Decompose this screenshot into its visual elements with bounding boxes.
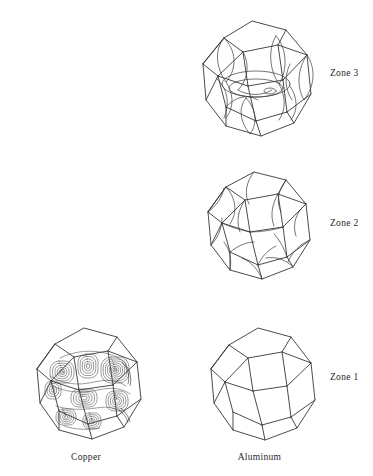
zone3-fermi-surface — [216, 36, 313, 134]
zone-label-3: Zone 3 — [330, 68, 358, 78]
panel-zone1-aluminum — [197, 318, 322, 446]
fermi-surface-figure: Zone 3 — [0, 0, 373, 476]
zone-label-1: Zone 1 — [330, 372, 358, 382]
zone3-polyhedron — [186, 8, 326, 148]
copper-fermi-contours — [45, 351, 130, 429]
panel-zone3-aluminum — [186, 8, 326, 148]
panel-zone1-copper — [22, 318, 150, 446]
zone2-polyhedron — [192, 160, 322, 285]
caption-aluminum: Aluminum — [197, 452, 322, 462]
zone3-outer-wireframe — [203, 21, 311, 136]
aluminum-outer-wireframe — [211, 328, 315, 440]
panel-zone2-aluminum — [192, 160, 322, 285]
zone-label-2: Zone 2 — [330, 218, 358, 228]
aluminum-polyhedron — [197, 318, 322, 446]
zone2-inner-surface — [208, 172, 310, 279]
copper-polyhedron — [22, 318, 150, 446]
caption-copper: Copper — [22, 452, 150, 462]
